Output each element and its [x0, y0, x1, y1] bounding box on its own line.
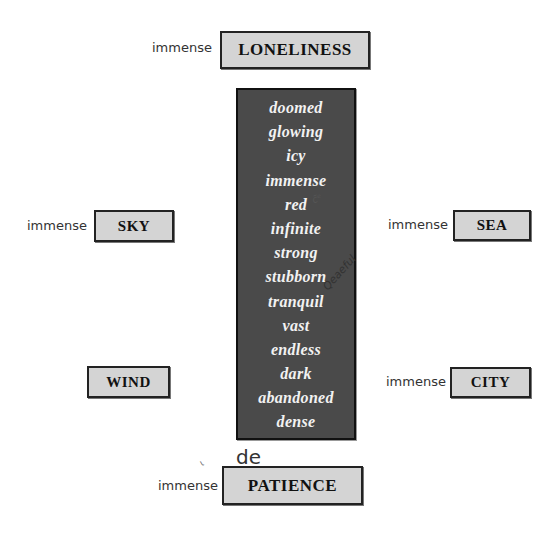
- adjective-word: strong: [274, 241, 318, 265]
- answer-loneliness: immense: [152, 40, 212, 55]
- answer-sea: immense: [388, 217, 448, 232]
- noun-box-loneliness: LONELINESS: [220, 31, 370, 69]
- adjective-word: immense: [266, 169, 327, 193]
- adjective-word: endless: [271, 338, 321, 362]
- answer-patience: immense: [158, 478, 218, 493]
- adjective-word: glowing: [269, 120, 324, 144]
- noun-label-loneliness: LONELINESS: [238, 40, 352, 60]
- adjective-word: vast: [283, 314, 310, 338]
- noun-box-sky: SKY: [94, 210, 174, 242]
- noun-label-city: CITY: [471, 374, 511, 391]
- noun-label-wind: WIND: [106, 374, 151, 391]
- adjective-word: tranquil: [268, 290, 324, 314]
- adjective-word: red: [285, 193, 307, 217]
- noun-box-city: CITY: [450, 367, 531, 398]
- adjective-word: dense: [277, 410, 316, 434]
- adjective-word: stubborn: [265, 265, 326, 289]
- noun-box-wind: WIND: [87, 366, 170, 398]
- noun-box-sea: SEA: [453, 210, 531, 241]
- handwritten-tick-mark: ι: [198, 458, 206, 468]
- answer-city: immense: [386, 374, 446, 389]
- adjective-word: icy: [286, 144, 306, 168]
- adjective-word: infinite: [271, 217, 321, 241]
- adjective-word: doomed: [269, 96, 322, 120]
- noun-label-sea: SEA: [477, 217, 508, 234]
- noun-label-sky: SKY: [118, 218, 150, 235]
- adjective-word: dark: [280, 362, 311, 386]
- adjective-word: abandoned: [258, 386, 334, 410]
- noun-label-patience: PATIENCE: [248, 476, 337, 496]
- noun-box-patience: PATIENCE: [222, 466, 363, 505]
- answer-sky: immense: [27, 218, 87, 233]
